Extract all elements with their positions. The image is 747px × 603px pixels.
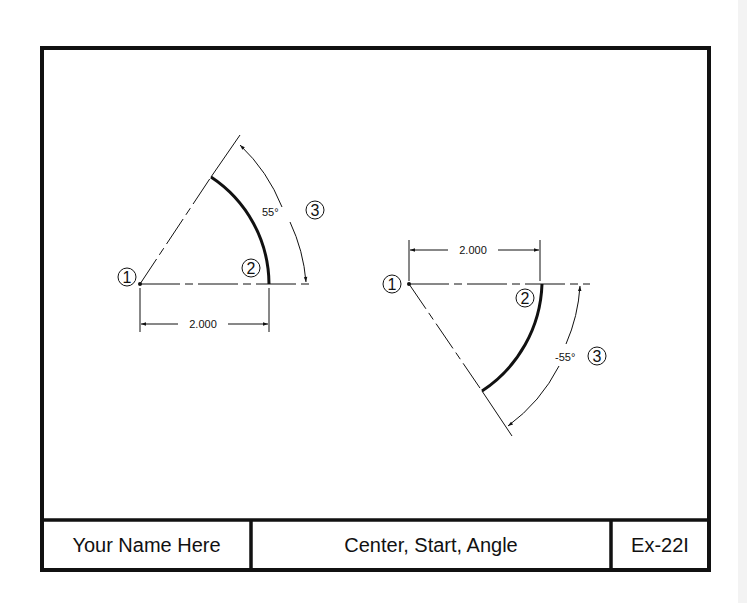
figure-right: -55° 2.000 1 2 3 [383,240,606,436]
figure-left: 55° 2.000 1 2 3 [118,135,324,332]
right-angle-label: -55° [555,351,575,363]
right-extension-line [482,391,512,436]
right-center-point [407,282,411,286]
right-radius-label: 2.000 [459,244,487,256]
right-marker-1: 1 [388,276,397,293]
right-angle-dim-arc-upper [566,286,580,344]
left-angle-dim-arc-upper [240,145,282,207]
right-angle-dim-arc-lower [508,366,559,426]
left-marker-2: 2 [247,260,256,277]
right-marker-2: 2 [521,290,530,307]
left-marker-1: 1 [123,269,132,286]
left-radius-line [140,177,211,284]
left-marker-3: 3 [311,202,320,219]
student-name: Your Name Here [42,520,251,570]
right-arc [482,284,542,391]
left-angle-dim-arc-lower [290,222,306,282]
exercise-id: Ex-22I [611,520,709,570]
right-marker-3: 3 [593,348,602,365]
right-radius-line [409,284,482,391]
left-angle-label: 55° [262,206,279,218]
left-center-point [138,282,142,286]
drawing-sheet: 55° 2.000 1 2 3 -55° 2.000 1 2 3 [0,0,747,603]
drawing-border [42,48,709,570]
left-extension-line [211,135,240,177]
title-block: Your Name Here Center, Start, Angle Ex-2… [42,520,709,570]
drawing-title: Center, Start, Angle [251,520,611,570]
left-radius-label: 2.000 [189,318,217,330]
